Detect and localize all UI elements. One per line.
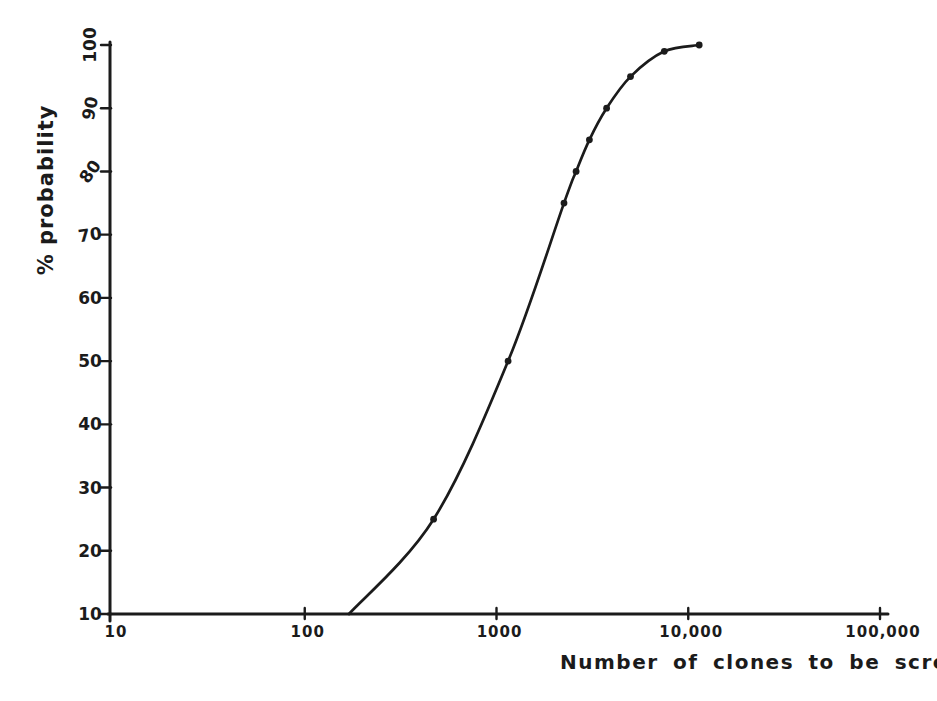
data-point <box>627 73 634 80</box>
figure-root: 10203040506070809010010100100010,000100,… <box>0 0 937 701</box>
chart-plot: 10203040506070809010010100100010,000100,… <box>0 0 937 701</box>
y-tick-label: 50 <box>78 351 102 371</box>
y-tick-label: 90 <box>78 94 103 121</box>
data-point <box>603 105 610 112</box>
x-tick-label: 1000 <box>477 623 523 641</box>
y-tick-label: 100 <box>80 27 100 63</box>
data-point <box>586 136 593 143</box>
data-point <box>561 200 568 207</box>
data-point <box>430 516 437 523</box>
y-tick-label: 70 <box>77 223 103 246</box>
x-tick-label: 100 <box>291 623 325 641</box>
x-tick-label: 10 <box>105 623 128 641</box>
y-tick-label: 80 <box>75 156 105 187</box>
y-tick-label: 60 <box>78 288 102 308</box>
y-tick-label: 40 <box>78 414 102 434</box>
y-axis-title: % probability <box>34 105 58 276</box>
data-point <box>696 42 703 49</box>
probability-curve <box>349 45 699 614</box>
data-point <box>573 168 580 175</box>
data-point <box>505 358 512 365</box>
x-tick-label: 100,000 <box>845 623 920 641</box>
x-axis-title: Number of clones to be screened <box>560 650 937 674</box>
data-point <box>661 48 668 55</box>
y-tick-label: 20 <box>78 541 102 561</box>
y-tick-label: 30 <box>78 478 102 498</box>
y-tick-label: 10 <box>78 604 102 624</box>
x-tick-label: 10,000 <box>659 623 723 641</box>
